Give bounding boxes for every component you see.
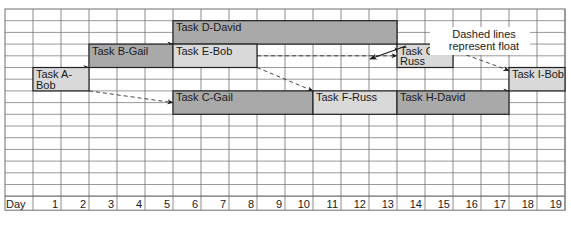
task-bar-label: Task B-Gail <box>92 45 148 57</box>
task-bar-label: Task F-Russ <box>316 91 378 103</box>
gantt-chart-canvas: Day12345678910111213141516171819 Task A-… <box>0 0 571 226</box>
task-bar-b: Task B-Gail <box>89 44 173 67</box>
day-tick-label: 13 <box>382 198 394 210</box>
task-bar-d: Task D-David <box>173 21 397 44</box>
day-tick-label: 2 <box>80 198 86 210</box>
day-tick-label: 9 <box>276 198 282 210</box>
day-tick-label: 4 <box>136 198 142 210</box>
day-tick-label: 19 <box>550 198 562 210</box>
day-tick-label: 17 <box>494 198 506 210</box>
gantt-chart: Day12345678910111213141516171819 Task A-… <box>0 0 571 226</box>
day-tick-label: 11 <box>327 198 338 210</box>
day-tick-label: 15 <box>438 198 450 210</box>
task-bar-label: Task I-Bob <box>512 68 564 80</box>
annotation-line-1: Dashed lines <box>452 28 516 40</box>
task-bar-label: Task C-Gail <box>176 91 233 103</box>
day-tick-label: 14 <box>410 198 422 210</box>
day-tick-label: 10 <box>298 198 310 210</box>
day-tick-label: 8 <box>248 198 254 210</box>
axis-label-day: Day <box>6 198 26 210</box>
day-tick-label: 18 <box>522 198 534 210</box>
task-bar-f: Task F-Russ <box>313 91 397 114</box>
day-tick-label: 6 <box>192 198 198 210</box>
task-bar-h: Task H-David <box>397 91 509 114</box>
task-bar-e: Task E-Bob <box>173 44 257 67</box>
task-bar-label: Russ <box>400 55 426 67</box>
day-tick-label: 1 <box>52 198 58 210</box>
task-bar-a: Task A-Bob <box>33 68 89 91</box>
task-bar-i: Task I-Bob <box>509 68 565 91</box>
day-tick-label: 5 <box>164 198 170 210</box>
task-bar-label: Task D-David <box>176 21 241 33</box>
task-bar-label: Task E-Bob <box>176 45 232 57</box>
day-tick-label: 16 <box>466 198 478 210</box>
day-tick-label: 12 <box>354 198 366 210</box>
task-bar-label: Task H-David <box>400 91 465 103</box>
task-bar-c: Task C-Gail <box>173 91 313 114</box>
day-tick-label: 7 <box>220 198 226 210</box>
day-tick-label: 3 <box>108 198 114 210</box>
annotation-line-2: represent float <box>449 40 519 52</box>
task-bar-label: Bob <box>36 79 56 91</box>
